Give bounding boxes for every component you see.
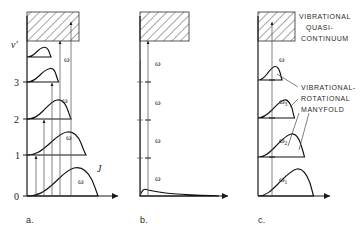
panel-a-manyfold-v3 — [27, 68, 59, 82]
panel-a-label: a. — [26, 215, 34, 225]
panel-b-omega-1: ω — [155, 173, 161, 183]
panel-b: ω ω ω ω b. — [137, 12, 228, 225]
panel-b-omega-2: ω — [155, 135, 161, 145]
manyfold-line-2: ROTATIONAL — [301, 95, 350, 102]
leader-line-2 — [290, 99, 298, 107]
panel-a-omega-3: ω — [62, 95, 68, 105]
panel-b-quasi-continuum-block — [140, 12, 189, 41]
manyfold-line-1: VIBRATIONAL- — [301, 84, 356, 91]
panel-c-omega-3: ω3 — [279, 96, 288, 107]
panel-b-label: b. — [140, 215, 148, 225]
diagram-svg: 0 1 2 3 v' J ω ω ω ω a. ω ω ω ω — [0, 0, 363, 239]
figure-canvas: 0 1 2 3 v' J ω ω ω ω a. ω ω ω ω — [0, 0, 363, 239]
quasi-continuum-line-1: VIBRATIONAL — [299, 13, 351, 20]
panel-c-manyfold-4 — [258, 66, 282, 80]
panel-a-manyfold-v1 — [27, 132, 86, 155]
panel-a-omega-1: ω — [78, 176, 84, 186]
panel-b-omega-4: ω — [155, 58, 161, 68]
panel-a-tick-label-3: 3 — [14, 77, 19, 88]
panel-a: 0 1 2 3 v' J ω ω ω ω a. — [11, 12, 118, 225]
leader-line-4 — [299, 113, 309, 150]
panel-a-tick-label-0: 0 — [14, 191, 19, 202]
panel-c-manyfold-3 — [258, 100, 295, 118]
panel-a-omega-4: ω — [64, 54, 70, 64]
panel-a-y-axis-label: v' — [11, 39, 18, 50]
panel-b-omega-3: ω — [155, 97, 161, 107]
panel-a-x-axis-label: J — [97, 163, 102, 174]
panel-c-label: c. — [258, 215, 266, 225]
quasi-continuum-line-2: QUASI- — [306, 24, 334, 32]
panel-a-manyfold-v0 — [27, 168, 98, 196]
manyfold-line-3: MANYFOLD — [301, 106, 344, 113]
panel-c: ω1 ω2 ω3 ω VIBRATIONAL QUASI- CONTINUUM … — [258, 12, 356, 225]
quasi-continuum-line-3: CONTINUUM — [301, 35, 349, 42]
panel-a-tick-label-1: 1 — [15, 150, 20, 161]
panel-c-omega-4: ω — [279, 54, 285, 64]
panel-a-manyfold-v4 — [27, 47, 51, 57]
panel-a-tick-label-2: 2 — [14, 114, 19, 125]
panel-c-quasi-continuum-block — [258, 12, 295, 41]
panel-a-omega-2: ω — [66, 132, 72, 142]
panel-b-sliver-distribution — [140, 189, 219, 196]
